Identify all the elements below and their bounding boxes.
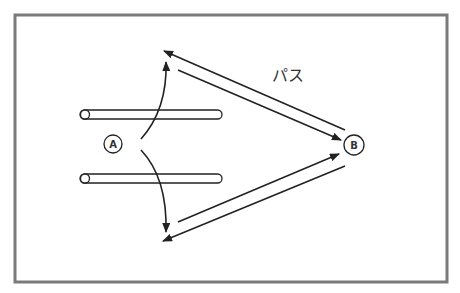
node-a: A bbox=[104, 135, 122, 153]
pass-label: パス bbox=[272, 66, 304, 85]
diagram-frame bbox=[15, 15, 447, 282]
node-b-label: B bbox=[350, 140, 358, 151]
upper-bar bbox=[80, 110, 222, 119]
pass-diagram: A B パス bbox=[0, 0, 460, 293]
lower-bar bbox=[80, 174, 222, 183]
node-a-label: A bbox=[109, 139, 117, 150]
node-b: B bbox=[344, 135, 364, 155]
